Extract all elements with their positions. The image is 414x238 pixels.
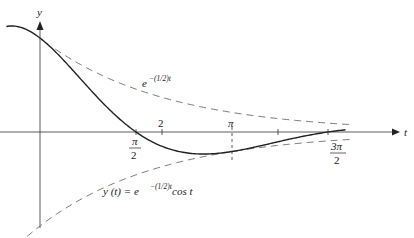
damped-cosine-plot: y t π 2 2 π 3π 2 e −(1/2)t y (t) = e −(1…	[0, 0, 414, 238]
two-label: 2	[158, 117, 164, 129]
y-axis-arrow-icon	[37, 21, 44, 30]
three-pi-over-2-den: 2	[334, 154, 340, 166]
svg-text:cos t: cos t	[172, 185, 193, 197]
t-axis-label: t	[404, 126, 408, 138]
svg-text:−(1/2)t: −(1/2)t	[149, 74, 172, 83]
svg-text:−(1/2)t: −(1/2)t	[150, 182, 173, 191]
formula-annotation: y (t) = e −(1/2)t cos t	[102, 182, 193, 198]
y-axis-label: y	[36, 6, 42, 18]
svg-text:y (t) = e: y (t) = e	[102, 185, 139, 198]
tick-labels: π 2 2 π 3π 2	[129, 117, 346, 166]
svg-text:e: e	[142, 77, 147, 89]
pi-over-2-den: 2	[131, 149, 137, 161]
pi-label: π	[228, 117, 234, 129]
upper-envelope-curve	[55, 49, 351, 125]
axes: y t	[0, 6, 408, 228]
pi-over-2-num: π	[132, 135, 138, 147]
three-pi-over-2-num: 3π	[330, 140, 343, 152]
t-axis-arrow-icon	[392, 129, 400, 136]
upper-envelope-annotation: e −(1/2)t	[142, 74, 172, 89]
damped-cosine-curve	[6, 26, 345, 154]
